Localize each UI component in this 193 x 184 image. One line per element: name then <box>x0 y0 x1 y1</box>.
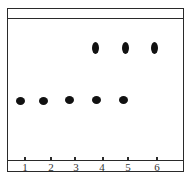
spot-lower-lane-3 <box>65 96 74 104</box>
lane-label-3: 3 <box>70 162 82 173</box>
spot-lower-lane-2 <box>39 97 48 105</box>
lane-tick-6 <box>156 157 158 160</box>
lane-label-1: 1 <box>19 162 31 173</box>
spot-lower-lane-1 <box>16 97 25 105</box>
lane-label-6: 6 <box>151 162 163 173</box>
lane-label-5: 5 <box>122 162 134 173</box>
lane-tick-3 <box>74 157 76 160</box>
lane-label-4: 4 <box>96 162 108 173</box>
tlc-plate <box>7 8 184 172</box>
solvent-front-line <box>7 18 184 19</box>
spot-lower-lane-5 <box>119 96 128 104</box>
spot-upper-lane-4 <box>92 42 99 54</box>
lane-tick-5 <box>127 157 129 160</box>
spot-lower-lane-4 <box>92 96 101 104</box>
spot-upper-lane-6 <box>151 42 158 54</box>
lane-tick-4 <box>102 157 104 160</box>
lane-label-2: 2 <box>45 162 57 173</box>
spot-upper-lane-5 <box>122 42 129 54</box>
lane-tick-1 <box>24 157 26 160</box>
lane-tick-2 <box>50 157 52 160</box>
